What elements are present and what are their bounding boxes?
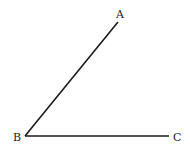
point-label-c: C bbox=[173, 131, 181, 144]
angle-diagram: A B C bbox=[0, 0, 190, 152]
point-label-a: A bbox=[115, 8, 125, 21]
point-label-b: B bbox=[13, 131, 21, 144]
ray-ba bbox=[25, 22, 118, 136]
